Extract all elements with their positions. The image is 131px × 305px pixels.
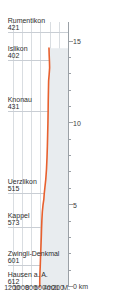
y-axis-title: m ü. M. — [47, 284, 70, 291]
station-elevation: 421 — [8, 25, 45, 32]
x-axis-tick — [68, 172, 71, 173]
plot-area — [8, 22, 68, 287]
station-elevation: 402 — [8, 53, 28, 60]
x-axis-tick — [68, 221, 71, 222]
station-label: Islikon402 — [8, 46, 28, 61]
station-name: Hausen a. A. — [8, 271, 48, 278]
x-axis-tick — [68, 90, 71, 91]
station-elevation: 515 — [8, 185, 37, 192]
x-axis-tick — [68, 188, 71, 189]
x-axis-tick-label: 15 — [73, 38, 81, 45]
station-label: Hausen a. A.612 — [8, 271, 48, 286]
x-axis-tick-label: 5 — [73, 202, 77, 209]
x-axis-tick — [68, 270, 71, 271]
station-label: Zwingli-Denkmal601 — [8, 250, 60, 265]
x-axis-tick — [68, 237, 71, 238]
x-axis-tick — [68, 57, 71, 58]
station-label: Kappel573 — [8, 212, 30, 227]
station-label: Uerzlikon515 — [8, 178, 37, 193]
x-axis-tick — [68, 155, 71, 156]
x-axis-tick — [68, 73, 71, 74]
x-axis-tick — [68, 139, 71, 140]
station-elevation: 431 — [8, 104, 32, 111]
elevation-profile-widget: 0 km51015 20040060080010001200 m ü. M. H… — [0, 0, 131, 305]
station-name: Zwingli-Denkmal — [8, 250, 60, 257]
station-elevation: 601 — [8, 257, 60, 264]
x-axis-tick — [68, 106, 71, 107]
station-elevation: 573 — [8, 220, 30, 227]
station-label: Knonau431 — [8, 96, 32, 111]
station-name: Knonau — [8, 96, 32, 103]
station-label: Rumentikon421 — [8, 18, 45, 33]
station-elevation: 612 — [8, 279, 48, 286]
x-axis-tick-label: 0 km — [73, 284, 88, 291]
rotated-chart-frame: 0 km51015 20040060080010001200 m ü. M. H… — [0, 0, 131, 305]
x-axis-tick — [68, 253, 71, 254]
x-axis-tick-label: 10 — [73, 120, 81, 127]
elevation-series — [8, 22, 68, 287]
station-name: Uerzlikon — [8, 178, 37, 185]
